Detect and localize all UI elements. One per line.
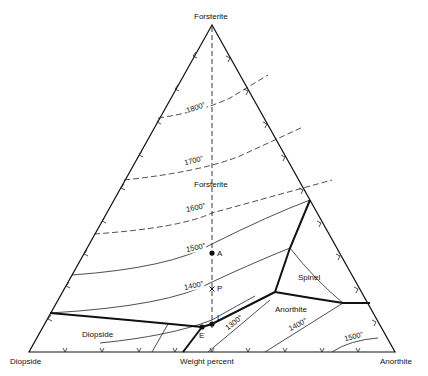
field-label-spinel: Spinel [298, 273, 320, 282]
axis-caption: Weight percent [180, 357, 234, 366]
isotherm-1300 [208, 300, 270, 352]
vertex-label-anorthite: Anorthite [380, 357, 412, 366]
field-label-diopside: Diopside [82, 330, 113, 339]
vertex-label-diopside: Diopside [10, 357, 41, 366]
boundary-diopside [50, 313, 202, 327]
point-e-marker [199, 324, 204, 329]
point-label-a: A [217, 249, 222, 258]
point-label-l: L [217, 313, 221, 322]
point-label-e: E [199, 331, 204, 340]
diopside-isotherm [152, 324, 168, 352]
right-ticks [226, 56, 376, 326]
vertex-label-forsterite: Forsterite [194, 12, 228, 21]
field-label-forsterite: Forsterite [194, 180, 228, 189]
point-label-p: P [217, 284, 222, 293]
point-l-marker [209, 321, 214, 326]
point-a-marker [209, 250, 214, 255]
field-label-anorthite: Anorthite [275, 305, 307, 314]
boundary-spinel-anorthite [275, 292, 370, 303]
